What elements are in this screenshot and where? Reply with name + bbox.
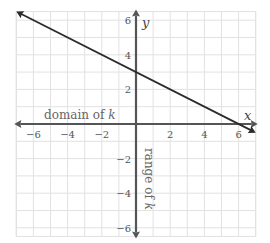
x-axis-label: x: [244, 108, 252, 123]
x-tick-label: −2: [94, 129, 109, 140]
x-tick-label: 2: [167, 129, 173, 140]
y-tick-label: −6: [116, 223, 131, 234]
y-axis-label: y: [141, 15, 150, 30]
x-axis-left-arrow-icon: [14, 120, 21, 128]
domain-annotation: domain of k: [44, 108, 116, 122]
coordinate-plane: −6−4−2246642−2−4−6 x y domain of k range…: [0, 0, 270, 243]
y-tick-label: −4: [116, 188, 131, 199]
y-axis-up-arrow-icon: [132, 10, 140, 17]
x-tick-label: −6: [26, 129, 41, 140]
x-tick-label: 4: [201, 129, 207, 140]
y-axis-down-arrow-icon: [132, 231, 140, 238]
x-tick-label: −4: [60, 129, 75, 140]
y-tick-label: 6: [125, 15, 131, 26]
y-tick-label: 4: [125, 50, 131, 61]
range-annotation: range of k: [142, 148, 156, 210]
y-tick-label: −2: [116, 154, 131, 165]
x-tick-label: 6: [235, 129, 241, 140]
y-tick-label: 2: [125, 84, 131, 95]
